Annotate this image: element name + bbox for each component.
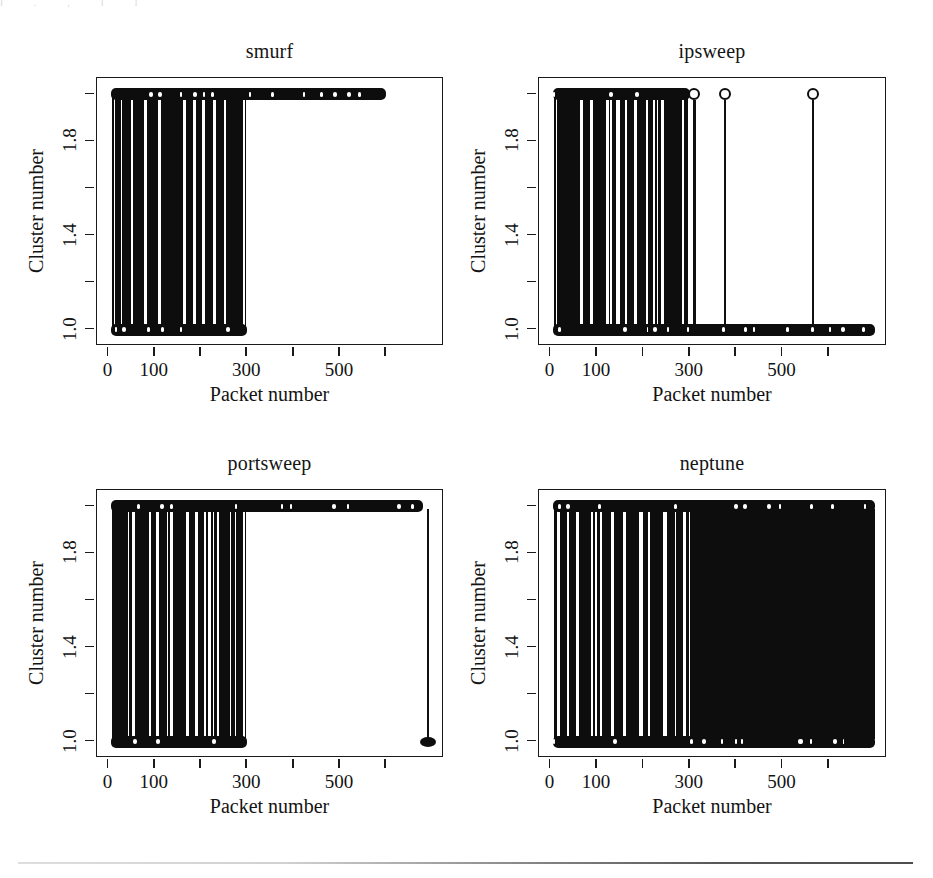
band-pinhole [156, 739, 159, 744]
band-pinhole [864, 504, 866, 509]
band-pinhole [558, 327, 560, 332]
cluster-band [111, 88, 386, 100]
band-pinhole [811, 327, 813, 332]
x-tick-label: 0 [103, 771, 113, 793]
band-pinhole [347, 92, 351, 97]
y-tick-mark [85, 552, 94, 554]
cluster-band [111, 736, 247, 748]
data-stripe [245, 97, 246, 326]
x-tick-label: 500 [767, 359, 796, 381]
data-stripe [231, 509, 235, 738]
data-stripe [664, 97, 682, 326]
band-pinhole [170, 504, 173, 509]
x-tick-label: 300 [675, 359, 704, 381]
data-stripe [560, 509, 567, 738]
band-pinhole [553, 92, 555, 97]
band-pinhole [702, 739, 706, 744]
panel-smurf: smurf01003005001.01.41.8Packet numberClu… [0, 0, 933, 878]
figure-canvas: l . , l l smurf01003005001.01.41.8Packet… [0, 0, 933, 878]
x-tick-mark [827, 347, 829, 356]
data-dropline [427, 509, 429, 738]
band-pinhole [623, 327, 627, 332]
band-pinhole [767, 504, 771, 509]
y-tick-mark [85, 281, 94, 283]
band-pinhole [180, 92, 182, 97]
y-tick-mark [85, 328, 94, 330]
band-pinhole [566, 504, 570, 509]
y-tick-label: 1.0 [59, 317, 81, 341]
data-stripe [627, 97, 634, 326]
data-stripe [655, 97, 657, 326]
x-tick-label: 500 [325, 771, 354, 793]
data-stripe [133, 97, 144, 326]
x-tick-mark [642, 759, 644, 768]
y-tick-mark [85, 93, 94, 95]
data-stripe [122, 97, 131, 326]
data-stripe [173, 509, 186, 738]
y-tick-mark [85, 234, 94, 236]
band-pinhole [211, 92, 215, 97]
y-tick-mark [85, 505, 94, 507]
data-stripe [602, 509, 611, 738]
x-tick-mark [549, 347, 551, 356]
x-tick-mark [338, 347, 340, 356]
x-tick-label: 0 [545, 359, 555, 381]
data-stripe [211, 509, 213, 738]
x-tick-mark [688, 759, 690, 768]
data-stripe [650, 509, 663, 738]
band-pinhole [397, 504, 401, 509]
x-tick-mark [245, 347, 247, 356]
plot-area-smurf [97, 78, 442, 344]
band-pinhole [137, 504, 139, 509]
band-pinhole [635, 92, 639, 97]
band-pinhole [332, 504, 336, 509]
y-tick-label: 1.4 [59, 635, 81, 659]
plot-area-ipsweep [539, 78, 885, 344]
data-dropline [724, 100, 726, 325]
panel-title-neptune: neptune [538, 452, 886, 475]
y-axis-title: Cluster number [467, 561, 490, 685]
x-tick-mark [595, 347, 597, 356]
x-axis-title: Packet number [652, 383, 771, 406]
data-stripe [612, 97, 616, 326]
band-pinhole [753, 327, 755, 332]
x-tick-label: 100 [140, 359, 169, 381]
panel-title-ipsweep: ipsweep [538, 40, 886, 63]
data-stripe [690, 509, 876, 738]
y-tick-label: 1.0 [501, 317, 523, 341]
data-stripe [147, 97, 158, 326]
data-stripe [626, 509, 639, 738]
data-stripe [112, 509, 127, 738]
data-stripe [189, 509, 195, 738]
data-stripe [205, 97, 213, 326]
data-stripe [583, 97, 590, 326]
band-pinhole [180, 327, 182, 332]
x-axis-title: Packet number [652, 795, 771, 818]
y-tick-label: 1.8 [501, 541, 523, 565]
band-pinhole [613, 739, 617, 744]
cluster-band [553, 324, 875, 336]
band-pinhole [779, 504, 782, 509]
plot-area-neptune [539, 490, 885, 756]
x-tick-mark [292, 759, 294, 768]
band-pinhole [687, 327, 689, 332]
panel-title-smurf: smurf [96, 40, 443, 63]
data-stripe [115, 97, 121, 326]
band-pinhole [843, 739, 845, 744]
y-tick-label: 1.8 [59, 541, 81, 565]
data-dropline [812, 100, 814, 325]
band-pinhole [122, 327, 126, 332]
data-stripe [569, 509, 576, 738]
y-tick-label: 1.4 [501, 635, 523, 659]
plot-frame-ipsweep [538, 77, 886, 345]
cluster-band [553, 88, 690, 100]
data-stripe [245, 509, 246, 738]
band-pinhole [147, 327, 150, 332]
band-pinhole [609, 92, 612, 97]
y-tick-mark [85, 187, 94, 189]
x-tick-mark [827, 759, 829, 768]
data-stripe [609, 97, 610, 326]
x-tick-mark [384, 759, 386, 768]
band-pinhole [862, 327, 865, 332]
data-stripe [667, 509, 676, 738]
